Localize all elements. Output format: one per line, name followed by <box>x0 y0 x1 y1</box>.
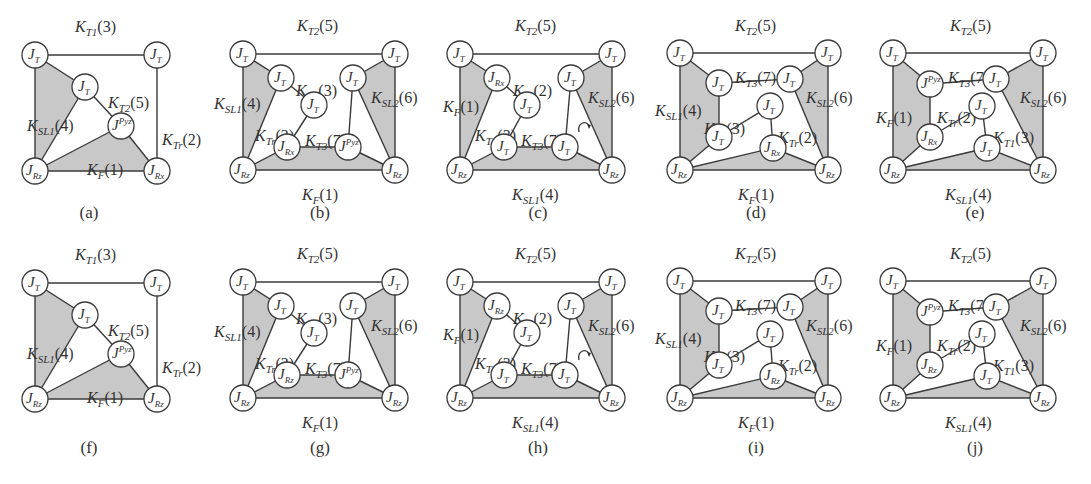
stiffness-label: KT2(5) <box>514 17 556 37</box>
joint-node: JPyz <box>335 134 361 160</box>
panel-h: KT2(5)KTr(2)KF(1)KSL2(6)KT1(3)KT3(7)KSL1… <box>442 245 634 457</box>
joint-node: JT <box>757 93 783 119</box>
stiffness-label: KF(1) <box>737 414 774 434</box>
joint-node: JT <box>447 269 473 295</box>
joint-node: JT <box>815 268 841 294</box>
panel-caption: (h) <box>528 438 548 457</box>
joint-node: JRz <box>599 157 625 183</box>
joint-node: JT <box>983 294 1009 320</box>
joint-node: JRz <box>599 385 625 411</box>
joint-node: JRx <box>760 135 786 161</box>
joint-node: JPyz <box>917 71 943 97</box>
stiffness-label: KT2(5) <box>949 17 991 37</box>
joint-node: JT <box>1030 40 1056 66</box>
joint-node: JT <box>514 92 540 118</box>
joint-node: JT <box>340 293 366 319</box>
joint-node: JPyz <box>335 362 361 388</box>
stiffness-label: KT2(5) <box>107 94 149 114</box>
joint-node: JRx <box>144 158 170 184</box>
panel-caption: (c) <box>529 203 548 222</box>
joint-node: JRz <box>144 386 170 412</box>
joint-node: JT <box>491 362 517 388</box>
stiffness-label: KT3(7) <box>734 297 776 317</box>
joint-node: JRz <box>1030 157 1056 183</box>
stiffness-label: KT2(5) <box>514 245 556 265</box>
stiffness-label: KT2(5) <box>296 17 338 37</box>
joint-node: JT <box>382 269 408 295</box>
stiffness-label: KTr(2) <box>161 131 201 151</box>
figure-canvas: KT1(3)KT2(5)KSL1(4)KTr(2)KF(1)JTJTJTJPyz… <box>0 0 1091 484</box>
panel-d: KT2(5)KT3(7)KSL1(4)KSL2(6)KT1(3)KTr(2)KF… <box>654 17 852 222</box>
joint-node: JT <box>706 352 732 378</box>
joint-node: JT <box>880 40 906 66</box>
joint-node: JT <box>72 302 98 328</box>
joint-node: JT <box>491 134 517 160</box>
joint-node: JPyz <box>917 299 943 325</box>
joint-node: JT <box>983 66 1009 92</box>
stiffness-label: KT1(3) <box>74 18 116 38</box>
stiffness-label: KT1(3) <box>74 246 116 266</box>
joint-node: JT <box>301 320 327 346</box>
joint-node: JT <box>880 268 906 294</box>
joint-node: JT <box>558 293 584 319</box>
rotation-arrow-icon <box>579 123 589 132</box>
joint-node: JT <box>706 298 732 324</box>
stiffness-label: KT2(5) <box>734 245 776 265</box>
rotation-arrow-icon <box>579 351 589 360</box>
joint-node: JT <box>599 269 625 295</box>
panel-g: KT2(5)KT1(3)KSL1(4)KSL2(6)KTr(2)KT3(7)KF… <box>213 245 417 457</box>
joint-node: JT <box>72 74 98 100</box>
joint-node: JT <box>22 270 48 296</box>
joint-node: JRz <box>447 157 473 183</box>
joint-node: JRz <box>917 352 943 378</box>
joint-node: JT <box>514 320 540 346</box>
joint-node: JRz <box>382 385 408 411</box>
joint-node: JRz <box>880 157 906 183</box>
joint-node: JT <box>667 268 693 294</box>
panel-j: KT2(5)KT3(7)KF(1)KSL2(6)KTr(2)KT1(3)KSL1… <box>875 245 1066 457</box>
panel-caption: (e) <box>966 203 985 222</box>
joint-node: JRx <box>274 134 300 160</box>
joint-node: JT <box>552 134 578 160</box>
panel-f: KT1(3)KT2(5)KSL1(4)KTr(2)KF(1)JTJTJTJPyz… <box>22 246 201 457</box>
joint-node: JT <box>706 70 732 96</box>
panel-caption: (d) <box>746 203 766 222</box>
joint-node: JT <box>340 65 366 91</box>
joint-node: JT <box>969 321 995 347</box>
panel-e: KT2(5)KT3(7)KF(1)KSL2(6)KTr(2)KT1(3)KSL1… <box>875 17 1066 222</box>
panel-c: KT2(5)KTr(2)KF(1)KSL2(6)KT1(3)KT3(7)KSL1… <box>442 17 634 222</box>
joint-node: JRx <box>917 124 943 150</box>
joint-node: JRz <box>382 157 408 183</box>
joint-node: JRz <box>230 385 256 411</box>
joint-node: JRz <box>22 158 48 184</box>
joint-node: JT <box>757 321 783 347</box>
joint-node: JRz <box>22 386 48 412</box>
stiffness-label: KF(1) <box>86 161 123 181</box>
panel-caption: (j) <box>967 438 983 457</box>
joint-node: JRz <box>760 363 786 389</box>
joint-node: JRz <box>484 293 510 319</box>
panel-b: KT2(5)KT1(3)KSL1(4)KSL2(6)KTr(2)KT3(7)KF… <box>213 17 417 222</box>
joint-node: JT <box>144 42 170 68</box>
stiffness-label: KT3(7) <box>734 69 776 89</box>
stiffness-label: KT2(5) <box>107 322 149 342</box>
shaded-region <box>893 148 1043 170</box>
joint-node: JT <box>447 41 473 67</box>
stiffness-label: KTr(2) <box>161 359 201 379</box>
arrowhead-icon <box>587 124 591 129</box>
joint-node: JRz <box>815 385 841 411</box>
joint-node: JRx <box>484 65 510 91</box>
joint-node: JT <box>144 270 170 296</box>
joint-node: JPyz <box>108 113 134 139</box>
panel-caption: (a) <box>80 203 99 222</box>
stiffness-label: KT2(5) <box>949 245 991 265</box>
stiffness-label: KT2(5) <box>734 17 776 37</box>
joint-node: JT <box>974 363 1000 389</box>
panel-i: KT2(5)KT3(7)KSL1(4)KSL2(6)KT1(3)KTr(2)KF… <box>654 245 852 457</box>
joint-node: JT <box>974 135 1000 161</box>
joint-node: JT <box>706 124 732 150</box>
joint-node: JT <box>1030 268 1056 294</box>
joint-node: JT <box>969 93 995 119</box>
joint-node: JPyz <box>108 341 134 367</box>
joint-node: JT <box>815 40 841 66</box>
